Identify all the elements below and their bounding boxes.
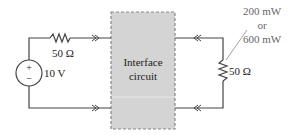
power-annotation-line1: 200 mW bbox=[243, 5, 282, 17]
minus-sign: − bbox=[26, 73, 32, 84]
load-resistor-icon bbox=[219, 60, 227, 81]
left-terminal-arrows bbox=[92, 35, 99, 111]
source-voltage-label: 10 V bbox=[44, 67, 66, 79]
source-resistor-icon bbox=[50, 34, 70, 42]
interface-label-line2: circuit bbox=[129, 70, 157, 82]
source-resistor-label: 50 Ω bbox=[52, 47, 74, 59]
plus-sign: + bbox=[26, 62, 32, 73]
circuit-diagram: + − 10 V 50 Ω Interface circuit 50 Ω 200… bbox=[0, 0, 297, 139]
load-side-wiring bbox=[175, 38, 227, 108]
power-annotation-line2: or bbox=[257, 19, 267, 31]
power-annotation-line3: 600 mW bbox=[243, 33, 282, 45]
right-terminal-arrows bbox=[194, 35, 201, 111]
load-resistor-label: 50 Ω bbox=[229, 65, 251, 77]
interface-label-line1: Interface bbox=[123, 56, 162, 68]
